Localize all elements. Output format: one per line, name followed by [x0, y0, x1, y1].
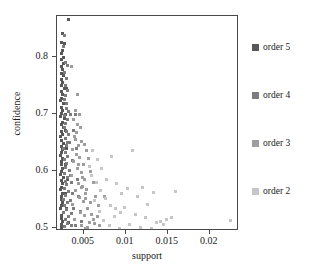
data-point [77, 182, 80, 185]
data-point [72, 207, 75, 210]
data-point [131, 149, 134, 152]
data-point [91, 149, 94, 152]
data-point [83, 214, 86, 217]
data-point [74, 109, 77, 112]
legend: order 5order 4order 3order 2 [252, 0, 314, 275]
scatter-plot-figure: 0.50.60.70.80.0050.010.0150.02 confidenc… [0, 0, 314, 275]
data-point [79, 211, 82, 214]
data-point [100, 167, 103, 170]
data-point [76, 178, 79, 181]
data-point [108, 224, 111, 227]
data-point [146, 203, 149, 206]
data-point [126, 187, 129, 190]
legend-item-label: order 5 [263, 43, 290, 53]
data-point [120, 192, 123, 195]
data-point [78, 196, 81, 199]
x-axis-tick [209, 230, 210, 234]
data-point [78, 113, 81, 116]
data-point [74, 138, 77, 141]
data-point [85, 149, 88, 152]
data-point [65, 102, 68, 105]
data-point [85, 188, 88, 191]
data-point [67, 133, 70, 136]
data-point [70, 224, 73, 227]
legend-swatch-icon [252, 188, 259, 195]
data-point [86, 226, 89, 229]
data-point [62, 147, 65, 150]
data-point [155, 221, 158, 224]
x-axis-tick-label: 0.015 [147, 236, 187, 246]
data-point [88, 165, 91, 168]
data-point [96, 158, 99, 161]
data-point [73, 218, 76, 221]
data-point [63, 172, 66, 175]
data-point [72, 160, 75, 163]
legend-swatch-icon [252, 92, 259, 99]
plot-area [56, 15, 238, 230]
data-point [80, 186, 83, 189]
data-point [77, 144, 80, 147]
x-axis-tick [83, 230, 84, 234]
legend-item-order-4[interactable]: order 4 [252, 91, 290, 101]
data-point [90, 174, 93, 177]
data-point [89, 170, 92, 173]
legend-swatch-icon [252, 44, 259, 51]
y-axis-tick-label: 0.6 [14, 165, 48, 175]
x-axis-tick [167, 230, 168, 234]
y-axis-tick-label: 0.5 [14, 222, 48, 232]
data-point [70, 65, 73, 68]
data-point [63, 114, 66, 117]
data-point [64, 122, 67, 125]
data-point [150, 227, 153, 230]
data-point [63, 98, 66, 101]
data-point [63, 71, 66, 74]
data-point [86, 207, 89, 210]
data-point [75, 147, 78, 150]
data-point [66, 118, 69, 121]
data-point [98, 224, 101, 227]
legend-item-order-2[interactable]: order 2 [252, 187, 290, 197]
data-point [62, 211, 65, 214]
data-point [152, 191, 155, 194]
legend-item-order-3[interactable]: order 3 [252, 139, 290, 149]
data-point [72, 118, 75, 121]
data-point [68, 141, 71, 144]
data-point [63, 187, 66, 190]
data-point [141, 186, 144, 189]
legend-item-order-5[interactable]: order 5 [252, 43, 290, 53]
data-point [71, 192, 74, 195]
data-point [67, 18, 70, 21]
data-point [93, 199, 96, 202]
data-point [64, 137, 67, 140]
data-point [139, 226, 142, 229]
data-point [84, 192, 87, 195]
data-point [119, 211, 122, 214]
data-point [74, 113, 77, 116]
data-point [76, 167, 79, 170]
data-point [59, 115, 62, 118]
data-point [66, 89, 69, 92]
data-point [74, 224, 77, 227]
data-point [76, 123, 79, 126]
data-point [92, 218, 95, 221]
data-point [66, 155, 69, 158]
data-point [99, 189, 102, 192]
data-point [63, 158, 66, 161]
data-point [83, 143, 86, 146]
data-point [84, 197, 87, 200]
data-point [110, 155, 113, 158]
data-point [66, 222, 69, 225]
data-point [70, 212, 73, 215]
legend-item-label: order 4 [263, 91, 290, 101]
data-point [229, 219, 232, 222]
data-point [69, 113, 72, 116]
data-point [70, 174, 73, 177]
data-point [63, 126, 66, 129]
data-point [81, 176, 84, 179]
x-axis-tick-label: 0.01 [105, 236, 145, 246]
data-point [75, 131, 78, 134]
data-point [118, 227, 121, 230]
data-point [96, 215, 99, 218]
legend-swatch-icon [252, 140, 259, 147]
data-point [65, 147, 68, 150]
